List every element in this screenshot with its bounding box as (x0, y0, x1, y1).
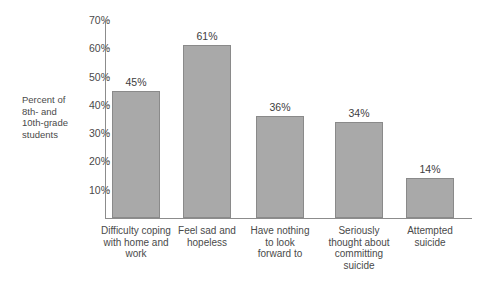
y-tick-30: 30% (53, 133, 110, 134)
y-tick-40: 40% (53, 105, 110, 106)
y-tick-mark (105, 161, 110, 162)
bar-value-label: 34% (329, 108, 389, 119)
y-tick-10: 10% (53, 190, 110, 191)
y-tick-label: 50% (64, 72, 110, 83)
category-label: Attempted suicide (384, 225, 476, 248)
x-axis-line (105, 218, 472, 219)
bar (183, 45, 231, 218)
y-tick-mark (105, 133, 110, 134)
bar (112, 91, 160, 218)
y-tick-70: 70% (53, 20, 110, 21)
y-tick-mark (105, 105, 110, 106)
y-tick-20: 20% (53, 161, 110, 162)
y-tick-60: 60% (53, 48, 110, 49)
bar-value-label: 61% (177, 31, 237, 42)
y-tick-label: 60% (64, 43, 110, 54)
y-tick-mark (105, 190, 110, 191)
y-tick-mark (105, 48, 110, 49)
bar (406, 178, 454, 218)
y-tick-label: 30% (64, 128, 110, 139)
y-tick-label: 40% (64, 100, 110, 111)
bar-chart: Percent of 8th- and 10th-grade students … (0, 0, 489, 287)
bar-value-label: 14% (400, 164, 460, 175)
bar-value-label: 45% (106, 77, 166, 88)
bar (335, 122, 383, 218)
y-tick-50: 50% (53, 77, 110, 78)
y-tick-label: 10% (64, 185, 110, 196)
y-tick-mark (105, 20, 110, 21)
y-tick-label: 20% (64, 156, 110, 167)
bar (256, 116, 304, 218)
y-tick-label: 70% (64, 15, 110, 26)
bar-value-label: 36% (250, 102, 310, 113)
